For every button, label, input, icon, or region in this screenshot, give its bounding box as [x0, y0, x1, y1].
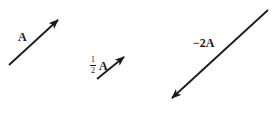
vector-diagram	[0, 0, 274, 113]
fraction-denominator: 2	[91, 67, 95, 75]
vector-neg-2a-arrow	[172, 10, 268, 98]
vector-a-label: A	[18, 31, 27, 43]
half-fraction: 1 2	[90, 56, 96, 75]
vector-a-arrow	[9, 20, 58, 65]
fraction-numerator: 1	[91, 56, 95, 64]
vector-half-a-label: A	[99, 60, 108, 72]
vector-neg-2a-label: −2A	[193, 37, 215, 49]
